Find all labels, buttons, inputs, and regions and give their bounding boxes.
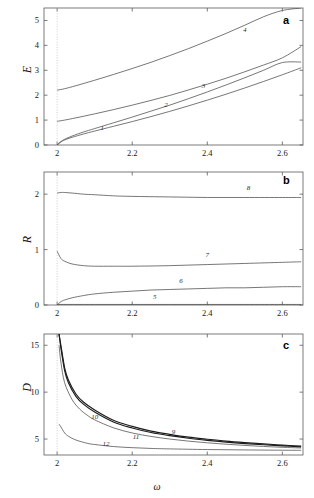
svg-text:5: 5 — [35, 15, 39, 25]
svg-text:3: 3 — [35, 65, 39, 75]
svg-text:2.2: 2.2 — [127, 308, 138, 318]
svg-text:2: 2 — [55, 148, 59, 158]
panel-c-letter: c — [283, 339, 289, 351]
svg-text:2.2: 2.2 — [127, 148, 138, 158]
panel-c-plot: 22.22.42.6510159101112 — [0, 327, 314, 477]
figure-container: 22.22.42.60123451234 E a 22.22.42.601256… — [0, 0, 314, 498]
svg-text:2.2: 2.2 — [127, 458, 138, 468]
panel-c: 22.22.42.6510159101112 — [0, 327, 314, 477]
panel-a: 22.22.42.60123451234 — [0, 0, 314, 162]
panel-a-plot: 22.22.42.60123451234 — [0, 0, 314, 162]
svg-text:4: 4 — [35, 40, 40, 50]
panel-b-ylabel: R — [20, 229, 35, 251]
svg-text:1: 1 — [35, 115, 39, 125]
x-axis-title: ω — [0, 481, 314, 492]
panel-b: 22.22.42.60125678 — [0, 162, 314, 327]
svg-text:2: 2 — [164, 101, 168, 109]
svg-text:5: 5 — [35, 434, 39, 444]
svg-text:3: 3 — [201, 82, 206, 90]
svg-text:9: 9 — [172, 428, 176, 436]
svg-text:0: 0 — [35, 140, 39, 150]
svg-text:2.4: 2.4 — [202, 148, 213, 158]
svg-text:2.4: 2.4 — [202, 308, 213, 318]
panel-b-letter: b — [283, 174, 290, 186]
panel-b-plot: 22.22.42.60125678 — [0, 162, 314, 327]
svg-text:2.6: 2.6 — [277, 308, 288, 318]
svg-text:2.6: 2.6 — [277, 458, 288, 468]
svg-text:1: 1 — [100, 124, 104, 132]
svg-text:6: 6 — [179, 277, 183, 285]
panel-a-letter: a — [283, 14, 289, 26]
svg-text:2.4: 2.4 — [202, 458, 213, 468]
svg-text:2: 2 — [55, 458, 59, 468]
svg-text:2.6: 2.6 — [277, 148, 288, 158]
svg-text:2: 2 — [35, 189, 39, 199]
panel-a-ylabel: E — [20, 59, 35, 81]
svg-text:2: 2 — [55, 308, 59, 318]
svg-text:5: 5 — [153, 293, 157, 301]
svg-text:7: 7 — [206, 251, 210, 259]
svg-text:0: 0 — [35, 300, 39, 310]
svg-text:2: 2 — [35, 90, 39, 100]
svg-text:4: 4 — [243, 26, 247, 34]
svg-text:8: 8 — [247, 184, 251, 192]
panel-c-ylabel: D — [20, 377, 35, 399]
svg-text:15: 15 — [31, 340, 40, 350]
svg-text:11: 11 — [133, 433, 139, 441]
svg-text:1: 1 — [35, 245, 39, 255]
svg-text:12: 12 — [102, 440, 110, 448]
